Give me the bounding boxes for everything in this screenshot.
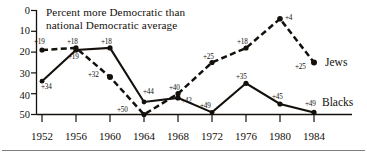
- jews-point-label-1968: +40: [169, 84, 180, 92]
- jews-point-label-1964: +50: [117, 106, 128, 114]
- jews-point-label-1976: +18: [237, 38, 248, 46]
- blacks-point-label-1968: +42: [181, 97, 192, 105]
- jews-point-label-1952: +19: [34, 38, 45, 46]
- x-tick-marks: [42, 115, 314, 123]
- jews-point-label-1984: +25: [295, 63, 306, 71]
- jews-point-label-1956: +18: [67, 38, 78, 46]
- blacks-point-label-1964: +44: [143, 88, 154, 96]
- blacks-point-label-1976: +35: [236, 73, 247, 81]
- jews-point-label-1980: +4: [285, 14, 292, 22]
- blacks-point-label-1984-pre: +45: [272, 93, 283, 101]
- blacks-point-label-1952: +34: [41, 83, 52, 91]
- chart-plot-area: [0, 0, 367, 159]
- blacks-point-label-1956: +19: [68, 53, 79, 61]
- blacks-point-label-1960: +18: [101, 38, 112, 46]
- blacks-point-label-1972: +49: [200, 102, 211, 110]
- blacks-series-line: [42, 48, 314, 113]
- bottom-divider-rule: [2, 150, 365, 151]
- legend-label-jews: Jews: [325, 56, 347, 68]
- jews-point-label-1960: +32: [88, 71, 99, 79]
- blacks-series-markers: [40, 45, 317, 115]
- y-tick-marks: [31, 11, 37, 115]
- jews-point-label-1972: +25: [203, 53, 214, 61]
- legend-label-blacks: Blacks: [322, 96, 353, 108]
- blacks-point-label-1984: +49: [305, 100, 316, 108]
- chart-figure: Percent more Democratic than national De…: [0, 0, 367, 159]
